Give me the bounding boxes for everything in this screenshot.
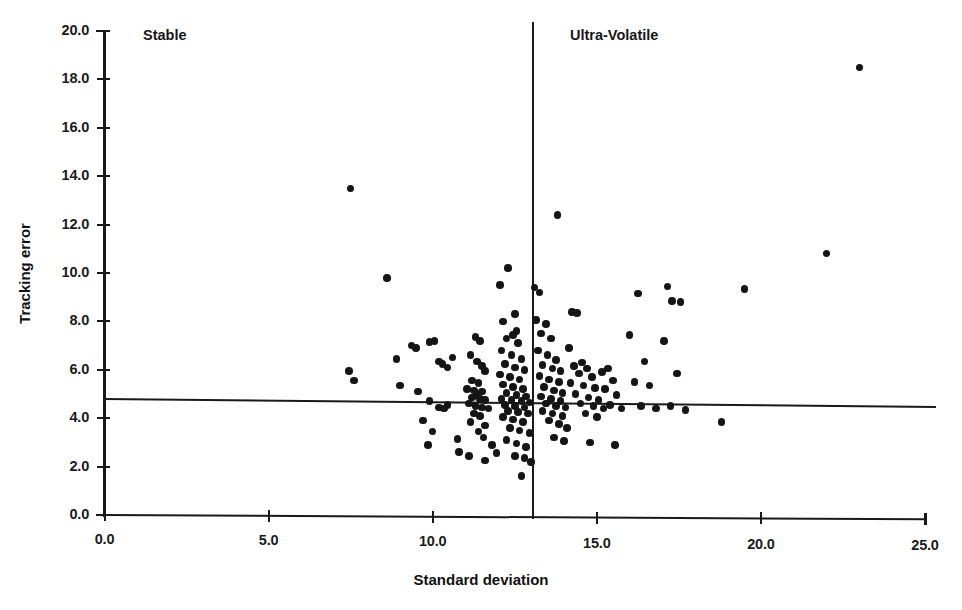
data-point [626, 331, 634, 339]
vertical-reference-line [532, 22, 534, 519]
data-point [667, 402, 675, 410]
data-point [383, 274, 391, 282]
scatter-plot-figure: 0.02.04.06.08.010.012.014.016.018.020.0 … [0, 0, 962, 610]
y-tick-20.0 [96, 30, 110, 32]
data-point [550, 387, 558, 395]
data-point [718, 418, 726, 426]
data-point [580, 382, 588, 390]
plot-area: 0.02.04.06.08.010.012.014.016.018.020.0 … [0, 0, 962, 610]
data-point [664, 283, 672, 291]
data-point [519, 385, 527, 393]
data-point [552, 402, 560, 410]
data-point [637, 402, 645, 410]
y-tick-label-16.0: 16.0 [33, 119, 89, 135]
data-point [516, 376, 524, 384]
y-axis-title: Tracking error [16, 174, 33, 374]
data-point [570, 362, 578, 370]
data-point [583, 365, 591, 373]
data-point [419, 417, 427, 425]
data-point [539, 407, 547, 415]
data-point [609, 377, 617, 385]
data-point [424, 441, 432, 449]
data-point [431, 337, 439, 345]
data-point [544, 351, 552, 359]
data-point [496, 281, 504, 289]
data-point [534, 347, 542, 355]
x-tick-label-25.0: 25.0 [895, 537, 955, 553]
data-point [429, 428, 437, 436]
data-point [481, 457, 489, 465]
data-point [537, 330, 545, 338]
y-tick-2.0 [97, 466, 110, 468]
y-tick-label-10.0: 10.0 [33, 264, 89, 280]
data-point [475, 379, 483, 387]
data-point [598, 368, 606, 376]
y-tick-10.0 [97, 272, 110, 274]
y-tick-label-18.0: 18.0 [33, 70, 89, 86]
data-point [496, 371, 504, 379]
data-point [501, 360, 509, 368]
data-point [518, 355, 526, 363]
data-point [508, 351, 516, 359]
data-point [660, 337, 668, 345]
data-point [590, 402, 598, 410]
data-point [493, 449, 501, 457]
data-point [524, 410, 532, 418]
y-tick-6.0 [97, 369, 110, 371]
data-point [506, 424, 514, 432]
data-point [514, 339, 522, 347]
data-point [511, 310, 519, 318]
data-point [345, 367, 353, 375]
data-point [526, 429, 534, 437]
data-point [565, 344, 573, 352]
x-axis-title: Standard deviation [0, 571, 962, 588]
data-point [606, 401, 614, 409]
y-tick-4.0 [97, 417, 110, 419]
data-point [562, 404, 570, 412]
data-point [631, 378, 639, 386]
data-point [549, 365, 557, 373]
data-point [499, 318, 507, 326]
data-point [350, 377, 358, 385]
data-point [559, 412, 567, 420]
y-tick-label-8.0: 8.0 [33, 312, 89, 328]
y-tick-label-0.0: 0.0 [33, 506, 89, 522]
data-point [440, 405, 448, 413]
data-point [499, 413, 507, 421]
data-point [554, 211, 562, 219]
data-point [550, 434, 558, 442]
data-point [540, 383, 548, 391]
data-point [519, 418, 527, 426]
data-point [503, 335, 511, 343]
data-point [532, 316, 540, 324]
data-point [577, 400, 585, 408]
data-point [449, 354, 457, 362]
data-point [741, 285, 749, 293]
data-point [559, 389, 567, 397]
data-point [668, 297, 676, 305]
data-point [634, 290, 642, 298]
data-point [856, 64, 864, 72]
data-point [522, 443, 530, 451]
quadrant-label-stable: Stable [143, 27, 187, 43]
data-point [545, 376, 553, 384]
data-point [536, 372, 544, 380]
data-point [511, 364, 519, 372]
data-point [485, 405, 493, 413]
data-point [604, 365, 612, 373]
data-point [498, 347, 506, 355]
data-point [618, 405, 626, 413]
data-point [563, 424, 571, 432]
y-tick-8.0 [97, 320, 110, 322]
data-point [509, 383, 517, 391]
data-point [555, 420, 563, 428]
data-point [542, 320, 550, 328]
data-point [393, 355, 401, 363]
data-point [582, 410, 590, 418]
data-point [513, 440, 521, 448]
data-point [557, 367, 565, 375]
data-point [641, 358, 649, 366]
data-point [467, 351, 475, 359]
data-point [560, 437, 568, 445]
data-point [476, 337, 484, 345]
